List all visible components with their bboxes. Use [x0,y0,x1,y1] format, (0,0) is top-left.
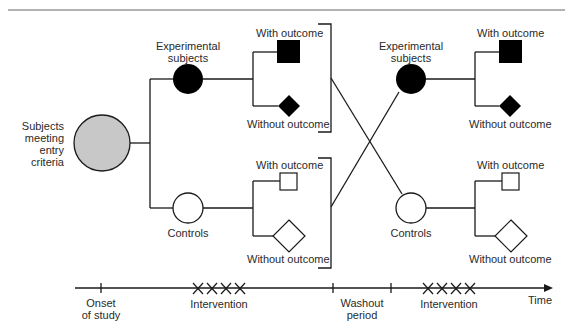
without-outcome-diamond-exp-2 [499,95,521,117]
intervention-label-2: Intervention [409,298,489,310]
experimental-circle-2 [396,64,426,94]
population-label-line: entry [18,144,64,156]
without-outcome-diamond-ctl-1 [273,220,305,252]
without-outcome-label-exp-1: Without outcome [247,118,330,130]
washout-label: Washout period [332,297,392,321]
experimental-circle-1 [173,64,203,94]
population-label-line: meeting [18,132,64,144]
experimental-label-1: Experimental subjects [148,40,228,64]
with-outcome-square-ctl-1 [280,173,297,190]
experimental-label-line: subjects [148,52,228,64]
with-outcome-label-exp-2: With outcome [477,27,544,39]
population-label-line: criteria [18,156,64,168]
without-outcome-label-ctl-1: Without outcome [247,253,330,265]
experimental-label-2: Experimental subjects [371,40,451,64]
without-outcome-diamond-exp-1 [278,95,300,117]
with-outcome-label-ctl-1: With outcome [256,159,323,171]
control-circle-2 [396,193,426,223]
washout-label-line: Washout [332,297,392,309]
with-outcome-square-ctl-2 [502,173,519,190]
washout-label-line: period [332,309,392,321]
experimental-label-line: Experimental [371,40,451,52]
controls-label-2: Controls [371,227,451,239]
population-label-line: Subjects [18,120,64,132]
controls-label-1: Controls [148,227,228,239]
population-label: Subjects meeting entry criteria [18,120,64,168]
onset-label-line: Onset [71,297,131,309]
onset-label-line: of study [71,309,131,321]
experimental-label-line: Experimental [148,40,228,52]
without-outcome-label-ctl-2: Without outcome [469,253,552,265]
without-outcome-label-exp-2: Without outcome [469,118,552,130]
onset-label: Onset of study [71,297,131,321]
control-circle-1 [173,193,203,223]
time-axis-label: Time [528,294,552,306]
with-outcome-label-ctl-2: With outcome [477,159,544,171]
with-outcome-label-exp-1: With outcome [256,27,323,39]
without-outcome-diamond-ctl-2 [495,220,527,252]
population-circle [74,115,130,171]
experimental-label-line: subjects [371,52,451,64]
intervention-label-1: Intervention [179,298,259,310]
with-outcome-square-exp-2 [499,40,522,63]
with-outcome-square-exp-1 [277,40,300,63]
time-arrowhead [544,284,553,292]
